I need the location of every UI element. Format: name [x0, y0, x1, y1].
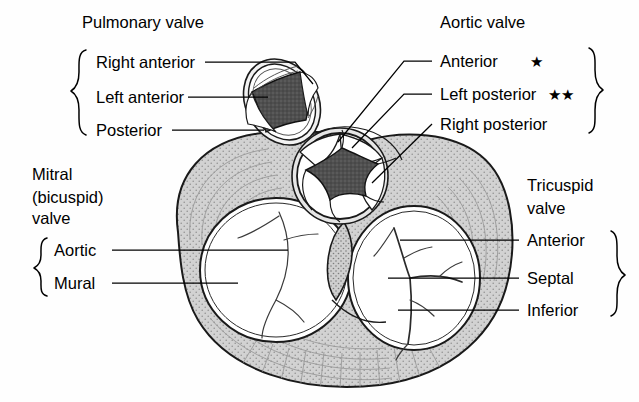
- pulmonary-cusp-right-anterior: Right anterior: [96, 53, 196, 71]
- aortic-cusp-anterior: Anterior: [440, 52, 498, 70]
- valve-diagram-figure: Pulmonary valve Right anterior Left ante…: [0, 0, 639, 402]
- tricuspid-cusp-septal: Septal: [527, 269, 574, 287]
- tricuspid-valve-heading-line1: Tricuspid: [527, 176, 593, 194]
- tricuspid-cusp-anterior: Anterior: [527, 231, 585, 249]
- tricuspid-cusp-inferior: Inferior: [527, 301, 579, 319]
- brace-mitral: [34, 238, 47, 296]
- pulmonary-cusp-left-anterior: Left anterior: [96, 88, 185, 106]
- pulmonary-cusp-posterior: Posterior: [96, 121, 163, 139]
- brace-tricuspid: [611, 231, 625, 316]
- brace-aortic: [589, 48, 603, 133]
- mitral-valve-heading-line1: Mitral: [32, 165, 72, 183]
- aortic-cusp-left-posterior-marker: ★★: [548, 86, 574, 103]
- aortic-cusp-anterior-marker: ★: [530, 53, 543, 70]
- mitral-valve-heading-line3: valve: [32, 209, 71, 227]
- aortic-cusp-right-posterior: Right posterior: [440, 115, 548, 133]
- pulmonary-valve-heading: Pulmonary valve: [82, 13, 204, 31]
- brace-pulmonary: [71, 50, 86, 135]
- mitral-cusp-aortic: Aortic: [54, 241, 96, 259]
- mitral-valve-heading-line2: (bicuspid): [32, 188, 104, 206]
- anatomical-illustration: Pulmonary valve Right anterior Left ante…: [0, 0, 639, 402]
- mitral-cusp-mural: Mural: [54, 274, 95, 292]
- tricuspid-valve-heading-line2: valve: [527, 199, 566, 217]
- aortic-valve-heading: Aortic valve: [440, 13, 525, 31]
- aortic-cusp-left-posterior: Left posterior: [440, 85, 537, 103]
